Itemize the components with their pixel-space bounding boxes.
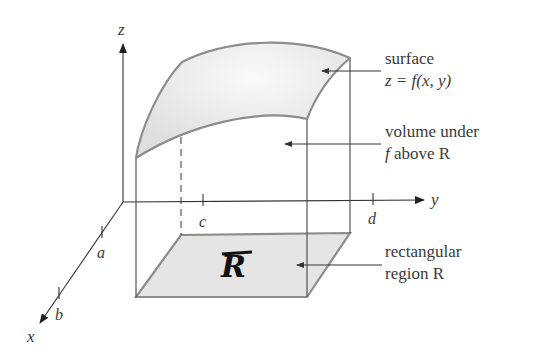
z-axis-label: z [117,20,125,39]
tick-label-b: b [55,306,63,323]
double-integral-diagram: z y x a b c d R surface z = f(x, y) volu… [0,0,536,355]
region-annotation-line1: rectangular [385,242,462,261]
y-axis [123,200,424,202]
volume-annotation-rest: above R [390,144,451,163]
y-axis-label: y [429,190,439,209]
surface-patch [136,43,350,158]
x-axis-label: x [26,327,35,346]
tick-label-d: d [368,210,377,227]
surface-annotation-line2: z = f(x, y) [384,71,452,90]
surface-annotation-line1: surface [385,49,434,68]
region-symbol-bar [222,252,252,254]
volume-annotation-line2: f above R [385,144,451,163]
volume-annotation-line1: volume under [385,122,479,141]
tick-label-a: a [97,244,105,261]
tick-label-c: c [199,213,206,230]
x-axis [40,202,123,323]
region-annotation-line2: region R [385,264,445,283]
